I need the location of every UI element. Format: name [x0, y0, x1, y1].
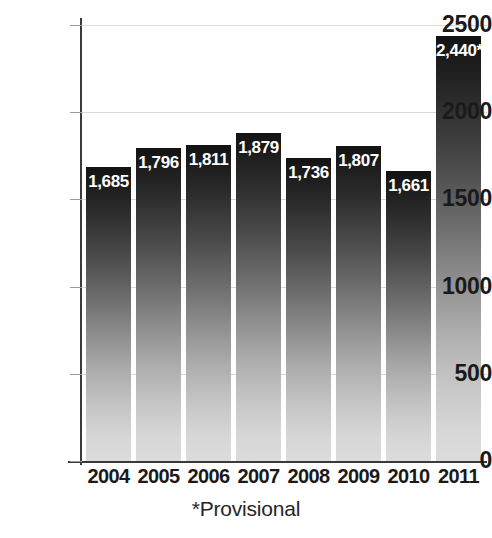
plot-area: 1,685 1,796 1,811 1,879 1,736 1,807 1,66…: [82, 25, 487, 461]
bar-2005[interactable]: 1,796: [136, 148, 181, 461]
x-tick-label-2004: 2004: [86, 466, 131, 486]
x-tick-label-2010: 2010: [386, 466, 431, 486]
y-tick-label-500: 500: [426, 362, 492, 385]
y-tick-mark-500: [70, 374, 82, 375]
y-tick-label-2500: 2500: [426, 13, 492, 36]
bar-2007[interactable]: 1,879: [236, 133, 281, 461]
bar-value-label: 1,736: [286, 164, 331, 181]
y-axis-line: [80, 18, 82, 465]
bar-value-label: 1,796: [136, 154, 181, 171]
x-axis-line: [68, 461, 487, 463]
bar-chart: 1,685 1,796 1,811 1,879 1,736 1,807 1,66…: [0, 0, 492, 538]
bar-2006[interactable]: 1,811: [186, 145, 231, 461]
y-tick-mark-2500: [70, 25, 82, 26]
chart-footnote: *Provisional: [0, 497, 492, 521]
y-tick-mark-2000: [70, 112, 82, 113]
x-tick-label-2005: 2005: [136, 466, 181, 486]
x-tick-label-2008: 2008: [286, 466, 331, 486]
y-tick-mark-0: [70, 461, 82, 462]
y-tick-mark-1000: [70, 287, 82, 288]
x-tick-label-2011: 2011: [436, 466, 481, 486]
bar-value-label: 2,440*: [436, 42, 481, 59]
bar-value-label: 1,807: [336, 152, 381, 169]
y-tick-label-2000: 2000: [426, 100, 492, 123]
x-tick-label-2006: 2006: [186, 466, 231, 486]
bar-2008[interactable]: 1,736: [286, 158, 331, 461]
bar-2010[interactable]: 1,661: [386, 171, 431, 461]
bar-value-label: 1,685: [86, 173, 131, 190]
bar-2009[interactable]: 1,807: [336, 146, 381, 461]
x-tick-label-2007: 2007: [236, 466, 281, 486]
bars-layer: 1,685 1,796 1,811 1,879 1,736 1,807 1,66…: [82, 25, 487, 461]
bar-value-label: 1,811: [186, 151, 231, 168]
bar-2004[interactable]: 1,685: [86, 167, 131, 461]
y-tick-label-1500: 1500: [426, 187, 492, 210]
x-tick-label-2009: 2009: [336, 466, 381, 486]
bar-value-label: 1,661: [386, 177, 431, 194]
y-tick-mark-1500: [70, 199, 82, 200]
bar-value-label: 1,879: [236, 139, 281, 156]
y-tick-label-1000: 1000: [426, 275, 492, 298]
